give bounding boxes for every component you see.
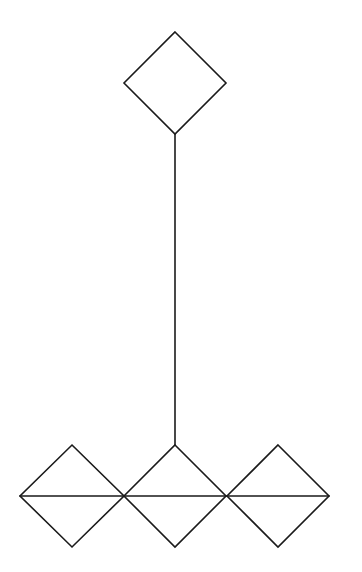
top-diamond: [124, 32, 226, 134]
connector-lines: [20, 134, 329, 496]
diagram-drawing: [0, 0, 362, 572]
diagram-canvas: [0, 0, 362, 572]
